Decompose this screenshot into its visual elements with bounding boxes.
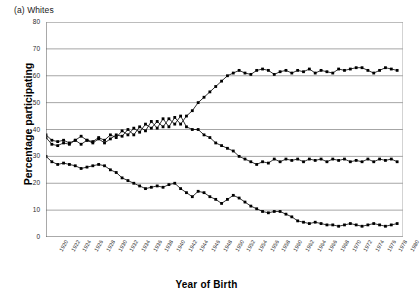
data-point-marker [91, 140, 94, 143]
data-point-marker [50, 139, 53, 142]
data-point-marker [138, 125, 141, 128]
data-point-marker [261, 160, 264, 163]
data-point-marker [390, 68, 393, 71]
data-point-marker [191, 109, 194, 112]
data-point-marker [267, 211, 270, 214]
gridlines [46, 22, 403, 210]
y-tick-label: 60 [20, 72, 40, 79]
x-tick-label: 1974 [374, 239, 385, 252]
data-point-marker [390, 224, 393, 227]
x-tick-label: 1926 [93, 239, 104, 252]
data-point-marker [156, 185, 159, 188]
data-point-marker [273, 210, 276, 213]
data-point-marker [255, 69, 258, 72]
data-point-marker [267, 162, 270, 165]
data-point-marker [191, 128, 194, 131]
data-point-marker [261, 68, 264, 71]
data-point-marker [331, 224, 334, 227]
y-tick-label: 50 [20, 99, 40, 106]
data-point-marker [273, 158, 276, 161]
data-point-marker [185, 115, 188, 118]
x-tick-label: 1968 [339, 239, 350, 252]
data-point-marker [191, 195, 194, 198]
data-point-marker [396, 69, 399, 72]
data-point-marker [320, 158, 323, 161]
data-point-marker [285, 158, 288, 161]
data-point-marker [121, 176, 124, 179]
data-point-marker [197, 128, 200, 131]
data-point-marker [208, 136, 211, 139]
x-tick-label: 1922 [70, 239, 81, 252]
data-point-marker [185, 191, 188, 194]
data-point-marker [290, 72, 293, 75]
x-tick-label: 1942 [187, 239, 198, 252]
data-point-marker [220, 144, 223, 147]
data-point-marker [74, 164, 77, 167]
data-point-marker [232, 72, 235, 75]
data-point-marker [314, 221, 317, 224]
x-tick-label: 1970 [351, 239, 362, 252]
data-point-marker [343, 224, 346, 227]
data-point-marker [378, 158, 381, 161]
data-point-marker [127, 128, 130, 131]
data-point-marker [320, 69, 323, 72]
data-point-marker [361, 225, 364, 228]
data-point-marker [349, 160, 352, 163]
panel-title: (a) Whites [14, 5, 54, 15]
data-point-marker [366, 224, 369, 227]
data-point-marker [326, 70, 329, 73]
data-point-marker [86, 166, 89, 169]
data-point-marker [56, 144, 59, 147]
data-point-marker [343, 158, 346, 161]
x-tick-label: 1964 [316, 239, 327, 252]
data-point-marker [203, 191, 206, 194]
data-point-marker [179, 187, 182, 190]
y-axis-label: Percentage participating [22, 34, 34, 214]
x-tick-label: 1960 [292, 239, 303, 252]
data-point-marker [244, 158, 247, 161]
data-point-marker [68, 163, 71, 166]
data-point-marker [214, 198, 217, 201]
x-tick-label: 1966 [327, 239, 338, 252]
x-tick-label: 1976 [386, 239, 397, 252]
data-point-marker [285, 213, 288, 216]
data-point-marker [168, 117, 171, 120]
data-point-marker [162, 125, 165, 128]
data-point-marker [121, 129, 124, 132]
x-tick-label: 1938 [163, 239, 174, 252]
data-point-marker [168, 125, 171, 128]
data-point-marker [62, 162, 65, 165]
data-point-marker [150, 127, 153, 130]
data-point-marker [308, 158, 311, 161]
x-tick-label: 1934 [140, 239, 151, 252]
x-tick-labels: 1920192219241926192819301932193419361938… [46, 239, 403, 279]
data-point-marker [337, 159, 340, 162]
data-point-marker [162, 186, 165, 189]
data-point-marker [103, 142, 106, 145]
data-point-marker [396, 160, 399, 163]
data-point-marker [132, 133, 135, 136]
x-tick-label: 1948 [222, 239, 233, 252]
data-point-marker [74, 139, 77, 142]
data-point-marker [232, 194, 235, 197]
data-point-marker [91, 164, 94, 167]
data-point-marker [249, 73, 252, 76]
data-point-marker [249, 205, 252, 208]
data-point-marker [197, 190, 200, 193]
x-tick-label: 1958 [280, 239, 291, 252]
data-point-marker [366, 158, 369, 161]
data-point-marker [150, 186, 153, 189]
data-point-marker [127, 133, 130, 136]
data-point-marker [156, 127, 159, 130]
data-point-marker [144, 129, 147, 132]
data-point-marker [384, 225, 387, 228]
data-point-marker [331, 72, 334, 75]
data-point-marker [267, 69, 270, 72]
data-point-marker [220, 80, 223, 83]
data-point-marker [214, 142, 217, 145]
data-point-marker [232, 150, 235, 153]
data-point-marker [80, 135, 83, 138]
data-point-marker [285, 69, 288, 72]
data-point-marker [355, 224, 358, 227]
data-point-marker [337, 225, 340, 228]
